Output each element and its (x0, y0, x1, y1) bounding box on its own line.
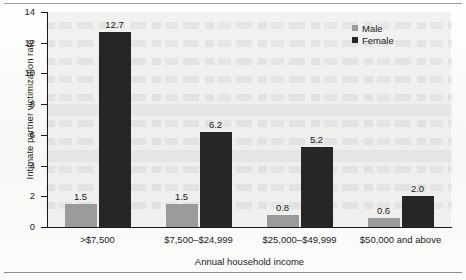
bar-value-label: 0.8 (259, 202, 307, 213)
x-axis-category-label: $50,000 and above (350, 234, 451, 245)
bar-male[interactable] (267, 215, 299, 227)
x-axis-category-label: $7,500–$24,999 (148, 234, 249, 245)
y-axis-line (47, 12, 48, 228)
page-rule-bottom (4, 272, 462, 273)
legend-label-male: Male (362, 23, 383, 34)
bar-value-label: 1.5 (57, 191, 105, 202)
bar-value-label: 6.2 (192, 119, 240, 130)
page-rule-top (4, 3, 462, 4)
legend: Male Female (352, 22, 394, 46)
y-axis-tick (41, 196, 47, 197)
x-axis-title: Annual household income (47, 256, 452, 267)
legend-item-female[interactable]: Female (352, 34, 394, 46)
y-axis-tick (41, 166, 47, 167)
x-axis-line (47, 227, 452, 228)
figure-chart: 02468101214 Intimate partner victimizati… (0, 0, 466, 280)
legend-swatch-male-icon (352, 25, 358, 31)
bar-value-label: 1.5 (158, 191, 206, 202)
bar-male[interactable] (65, 204, 97, 227)
x-axis-category-label: >$7,500 (47, 234, 148, 245)
bar-female[interactable] (99, 32, 131, 227)
bar-male[interactable] (166, 204, 198, 227)
bar-male[interactable] (368, 218, 400, 227)
y-axis-tick (41, 73, 47, 74)
y-axis-tick (41, 227, 47, 228)
bar-value-label: 2.0 (394, 183, 442, 194)
legend-label-female: Female (362, 35, 394, 46)
x-axis-category-label: $25,000–$49,999 (249, 234, 350, 245)
bar-value-label: 12.7 (91, 19, 139, 30)
y-axis-tick (41, 135, 47, 136)
y-axis-tick-label: 0 (9, 222, 35, 232)
bar-value-label: 0.6 (360, 205, 408, 216)
bar-female[interactable] (402, 196, 434, 227)
y-axis-title: Intimate partner victimization rate (24, 15, 35, 205)
y-axis-tick (41, 12, 47, 13)
legend-swatch-female-icon (352, 37, 358, 43)
bar-female[interactable] (301, 147, 333, 227)
bar-value-label: 5.2 (293, 134, 341, 145)
bar-female[interactable] (200, 132, 232, 227)
y-axis-tick (41, 43, 47, 44)
legend-item-male[interactable]: Male (352, 22, 394, 34)
y-axis-tick (41, 104, 47, 105)
